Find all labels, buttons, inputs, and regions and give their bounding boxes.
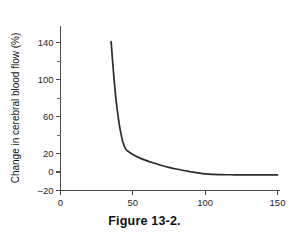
line-chart: –2002060100140 050100150 Change in cereb… (0, 0, 289, 212)
x-tick-label: 150 (270, 197, 286, 208)
y-axis-tick-labels: –2002060100140 (38, 37, 54, 196)
y-tick-label: –20 (38, 185, 54, 196)
x-axis-ticks (61, 191, 278, 196)
y-tick-label: 20 (43, 148, 54, 159)
y-axis-title: Change in cerebral blood flow (%) (10, 33, 21, 184)
y-tick-label: 0 (48, 166, 53, 177)
y-tick-label: 140 (38, 37, 54, 48)
x-tick-label: 0 (58, 197, 63, 208)
y-axis-ticks (56, 43, 61, 191)
x-tick-label: 100 (197, 197, 213, 208)
chart-plot-area: –2002060100140 050100150 Change in cereb… (0, 0, 289, 212)
x-tick-label: 50 (128, 197, 139, 208)
figure-caption: Figure 13-2. (0, 214, 289, 228)
data-series-curve (111, 42, 277, 175)
x-axis-tick-labels: 050100150 (58, 197, 286, 208)
figure-container: –2002060100140 050100150 Change in cereb… (0, 0, 289, 246)
y-tick-label: 60 (43, 111, 54, 122)
y-tick-label: 100 (38, 74, 54, 85)
